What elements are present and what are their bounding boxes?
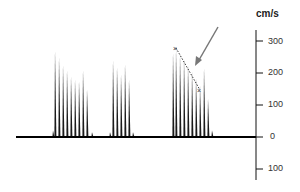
velocity-spike xyxy=(78,81,80,137)
tick-label-300: 300 xyxy=(268,36,283,46)
velocity-spike xyxy=(203,68,205,137)
velocity-spike xyxy=(74,79,76,137)
velocity-spike xyxy=(82,70,84,137)
velocity-spike xyxy=(116,67,118,137)
tick-label-neg100: 100 xyxy=(268,163,283,173)
velocity-spike xyxy=(70,76,72,137)
velocity-spike xyxy=(86,89,88,137)
velocity-spike xyxy=(66,70,68,137)
y-axis-unit: cm/s xyxy=(256,8,279,19)
velocity-spike xyxy=(179,54,181,137)
velocity-spike xyxy=(172,52,174,137)
tick-label-100: 100 xyxy=(268,99,283,109)
velocity-spike xyxy=(120,75,122,137)
y-axis-ticks xyxy=(256,41,263,169)
tick-label-0: 0 xyxy=(270,131,275,141)
arrow-shaft xyxy=(199,27,218,60)
velocity-spike xyxy=(58,57,60,137)
velocity-spike xyxy=(175,49,177,137)
velocity-spike xyxy=(62,65,64,137)
velocity-spike xyxy=(124,63,126,137)
velocity-spike xyxy=(54,51,56,137)
tick-label-200: 200 xyxy=(268,67,283,77)
x-marker-end: × xyxy=(197,87,201,94)
velocity-spike xyxy=(187,65,189,137)
doppler-chart: × × xyxy=(0,0,300,192)
velocity-spike xyxy=(191,71,193,137)
velocity-spike xyxy=(183,59,185,137)
velocity-spike xyxy=(128,79,130,137)
velocity-spikes xyxy=(52,49,213,137)
x-marker-start: × xyxy=(173,45,177,52)
velocity-spike xyxy=(207,99,209,137)
annotations: × × xyxy=(173,27,218,94)
velocity-spike xyxy=(112,60,114,137)
